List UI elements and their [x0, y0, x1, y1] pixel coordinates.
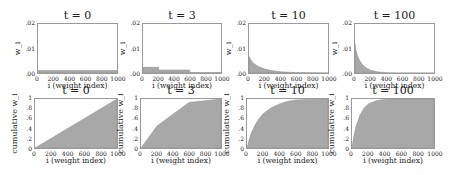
- x-axis-label: i (weight index): [34, 157, 118, 165]
- plot-area: [246, 98, 329, 149]
- plot-area: [142, 23, 222, 74]
- chart-title: t = 0: [37, 9, 118, 22]
- y-axis-label: cumulative w_i: [222, 88, 231, 158]
- plot-area: [351, 98, 435, 149]
- chart-title: t = 10: [248, 9, 329, 22]
- y-axis-label: w_i: [118, 38, 127, 58]
- area-series: [352, 99, 434, 148]
- x-axis-label: i (weight index): [351, 157, 435, 165]
- area-series: [247, 99, 328, 148]
- area-series: [249, 56, 328, 73]
- chart-title: t = 3: [142, 9, 222, 22]
- chart-title: t = 10: [246, 84, 329, 97]
- y-tick-label: .02: [334, 20, 352, 26]
- y-axis-label: cumulative w_i: [327, 88, 336, 158]
- chart-title: t = 100: [351, 84, 435, 97]
- y-axis-label: cumulative w_i: [10, 88, 19, 158]
- plot-area: [34, 98, 118, 149]
- x-axis-label: i (weight index): [140, 157, 222, 165]
- plot-area: [248, 23, 329, 74]
- x-axis-label: i (weight index): [246, 157, 329, 165]
- chart-title: t = 3: [140, 84, 222, 97]
- plot-area: [140, 98, 222, 149]
- area-series: [35, 99, 117, 148]
- y-axis-label: w_i: [330, 38, 339, 58]
- y-axis-label: cumulative w_i: [116, 88, 125, 158]
- area-series: [355, 44, 434, 73]
- y-tick-label: .02: [17, 20, 35, 26]
- y-tick-label: .02: [228, 20, 246, 26]
- chart-title: t = 100: [354, 9, 435, 22]
- area-series: [143, 67, 221, 73]
- area-series: [38, 71, 117, 73]
- area-series: [141, 99, 221, 148]
- y-axis-label: w_i: [224, 38, 233, 58]
- plot-area: [37, 23, 118, 74]
- y-tick-label: .02: [122, 20, 140, 26]
- y-axis-label: w_i: [13, 38, 22, 58]
- chart-title: t = 0: [34, 84, 118, 97]
- plot-area: [354, 23, 435, 74]
